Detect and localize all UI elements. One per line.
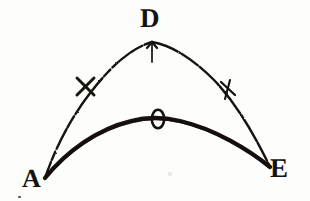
label-point-e: E — [270, 155, 288, 182]
upper-arc-left-segment — [45, 42, 152, 178]
label-point-d: D — [140, 5, 160, 32]
paper-speck — [168, 172, 172, 176]
apex-tick-icon — [147, 42, 157, 62]
label-point-a: A — [22, 166, 41, 192]
upper-arc-right-segment — [152, 42, 270, 167]
paper-speck — [18, 196, 21, 198]
figure-root: D A E — [0, 0, 310, 201]
left-cross-tick-icon — [77, 78, 94, 95]
